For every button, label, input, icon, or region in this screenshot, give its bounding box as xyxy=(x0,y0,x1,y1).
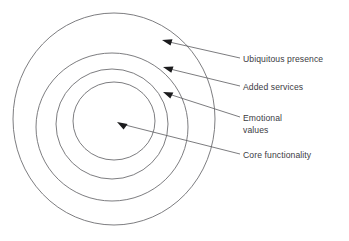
concentric-circles-diagram: Ubiquitous presence Added services Emoti… xyxy=(0,0,349,241)
arrow-emotional-values xyxy=(163,92,240,117)
label-emotional-values: Emotional values xyxy=(243,113,282,136)
label-added-services: Added services xyxy=(243,82,303,94)
label-ubiquitous-presence: Ubiquitous presence xyxy=(243,54,323,66)
diagram-canvas xyxy=(0,0,349,241)
ring-ubiquitous-presence xyxy=(13,13,215,225)
label-core-functionality: Core functionality xyxy=(243,150,311,162)
arrow-core-functionality xyxy=(117,122,240,154)
arrow-ubiquitous-presence xyxy=(162,39,240,58)
arrow-added-services xyxy=(163,66,240,86)
ring-core-functionality xyxy=(73,82,155,160)
